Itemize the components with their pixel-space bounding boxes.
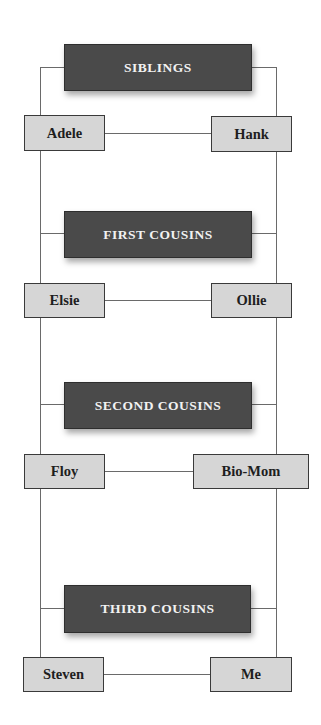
person-floy: Floy <box>24 454 105 489</box>
third-cousins-pair-connector <box>104 674 211 675</box>
second-cousins-right-connector <box>252 404 276 405</box>
category-third-cousins: THIRD COUSINS <box>64 585 251 633</box>
first-cousins-pair-connector <box>104 300 212 301</box>
second-cousins-pair-connector <box>104 471 194 472</box>
person-me: Me <box>210 657 292 692</box>
right-lineage-line <box>276 67 277 675</box>
siblings-pair-connector <box>104 133 212 134</box>
person-adele: Adele <box>24 115 105 151</box>
category-second-cousins: SECOND COUSINS <box>64 382 252 429</box>
left-lineage-line <box>40 67 41 675</box>
third-cousins-right-connector <box>251 608 276 609</box>
person-ollie: Ollie <box>211 283 292 318</box>
siblings-right-connector <box>252 67 276 68</box>
first-cousins-right-connector <box>252 233 276 234</box>
siblings-left-connector <box>40 67 65 68</box>
first-cousins-left-connector <box>40 233 65 234</box>
third-cousins-left-connector <box>40 608 65 609</box>
second-cousins-left-connector <box>40 404 65 405</box>
person-elsie: Elsie <box>24 283 105 318</box>
person-bio-mom: Bio-Mom <box>193 454 309 489</box>
category-first-cousins: FIRST COUSINS <box>64 211 252 258</box>
category-siblings: SIBLINGS <box>64 44 252 91</box>
person-hank: Hank <box>211 116 292 152</box>
person-steven: Steven <box>23 657 104 692</box>
